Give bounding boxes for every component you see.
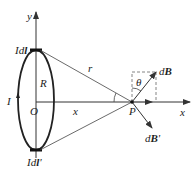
origin-label: O (30, 105, 38, 117)
current-element-top-label: Idl (14, 44, 28, 56)
point-p (130, 100, 134, 104)
point-p-label: P (128, 105, 136, 117)
distance-x-label: x (72, 105, 78, 117)
y-axis-label: y (26, 10, 32, 22)
x-axis-label: x (179, 106, 185, 118)
theta-arc (132, 88, 141, 91)
dB-prime-label: dB' (145, 132, 161, 144)
circular-loop-field-diagram: y x Idl Idl' R r O I x P θ dB dB' (0, 0, 196, 179)
current-label: I (6, 95, 12, 107)
angle-arc-p (114, 93, 116, 102)
diagram-canvas: y x Idl Idl' R r O I x P θ dB dB' (0, 0, 196, 179)
distance-r-label: r (88, 62, 93, 74)
theta-label: θ (136, 76, 142, 88)
current-element-bottom-label: Idl' (26, 156, 42, 168)
dB-label: dB (159, 65, 172, 77)
current-direction-arrow (16, 92, 20, 98)
radius-label: R (39, 77, 47, 89)
